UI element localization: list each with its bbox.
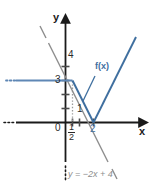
y-tick-label-4: 4 bbox=[68, 50, 74, 60]
y-axis-label: y bbox=[53, 12, 59, 23]
fx-ascending-branch bbox=[94, 37, 137, 123]
x-tick-label-1: 1 bbox=[77, 104, 83, 114]
x-tick-label-2: 2 bbox=[90, 124, 96, 134]
fraction-numerator: 1 bbox=[68, 123, 75, 132]
line-equation-label: y = −2x + 4 bbox=[68, 170, 113, 179]
fx-function-label: f(x) bbox=[95, 62, 109, 71]
fx-label-leader bbox=[83, 76, 95, 101]
graph-figure: y x 0 3 4 1 2 1 2 f(x) y = −2x + 4 bbox=[0, 0, 158, 190]
x-axis-label: x bbox=[139, 126, 145, 137]
gray-line-upper-dash bbox=[40, 26, 46, 38]
fraction-denominator: 2 bbox=[68, 132, 75, 142]
origin-label: 0 bbox=[55, 123, 61, 133]
coordinate-plane-svg bbox=[0, 0, 158, 190]
y-tick-label-3: 3 bbox=[55, 75, 61, 85]
x-tick-label-one-half: 1 2 bbox=[68, 123, 75, 143]
